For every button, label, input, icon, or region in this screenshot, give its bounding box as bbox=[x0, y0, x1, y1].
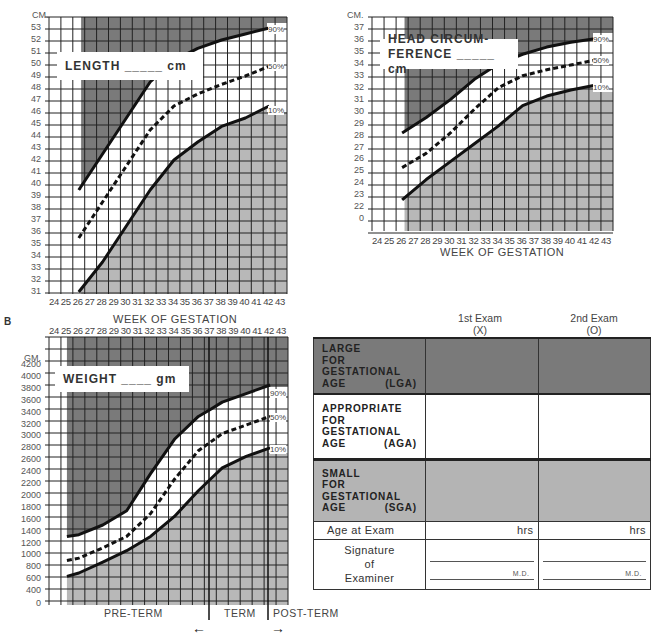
tick-label: 37 bbox=[13, 214, 41, 224]
tick-label: 30 bbox=[336, 106, 364, 116]
tick-label: 30 bbox=[120, 296, 130, 307]
arrow-left-icon: ← bbox=[192, 620, 206, 636]
tick-label: 35 bbox=[505, 235, 515, 246]
head-pct-50: 50% bbox=[593, 56, 609, 65]
signature-1st-exam-field[interactable]: M.D. bbox=[426, 539, 539, 589]
tick-label: 32 bbox=[336, 82, 364, 92]
tick-label: 25 bbox=[384, 235, 394, 246]
tick-label: 2000 bbox=[13, 490, 41, 500]
tick-label: 28 bbox=[420, 235, 430, 246]
aga-2nd-exam-cell[interactable] bbox=[538, 394, 651, 459]
tick-label: 31 bbox=[133, 325, 143, 336]
label-sga: SMALL FOR GESTATIONAL AGE(SGA) bbox=[314, 459, 426, 521]
tick-label: 28 bbox=[97, 325, 107, 336]
tick-label: 36 bbox=[336, 34, 364, 44]
aga-1st-exam-cell[interactable] bbox=[426, 394, 539, 459]
lga-2nd-exam-cell[interactable] bbox=[538, 338, 651, 394]
period-term: TERM bbox=[224, 607, 256, 619]
tick-label: 34 bbox=[493, 235, 503, 246]
length-pct-10: 10% bbox=[268, 106, 284, 115]
length-title-box: LENGTH _____ cm bbox=[57, 52, 203, 80]
length-unit-label: CM. bbox=[32, 10, 49, 20]
length-pct-50: 50% bbox=[268, 62, 284, 71]
tick-label: 35 bbox=[180, 325, 190, 336]
age-1st-exam-field[interactable]: hrs bbox=[426, 521, 539, 539]
tick-label: 23 bbox=[336, 189, 364, 199]
weight-pct-10: 10% bbox=[270, 445, 286, 454]
tick-label: 37 bbox=[336, 22, 364, 32]
tick-label: 25 bbox=[61, 325, 71, 336]
head-title-box: HEAD CIRCUM- FERENCE _____ cm bbox=[380, 39, 518, 69]
tick-label: 3800 bbox=[13, 383, 41, 393]
tick-label: 43 bbox=[601, 235, 611, 246]
tick-label: 4000 bbox=[13, 371, 41, 381]
tick-label: 39 bbox=[553, 235, 563, 246]
tick-label: 400 bbox=[13, 585, 41, 595]
tick-label: 1600 bbox=[13, 514, 41, 524]
signature-2nd-exam-field[interactable]: M.D. bbox=[538, 539, 651, 589]
lga-1st-exam-cell[interactable] bbox=[426, 338, 539, 394]
tick-label: 30 bbox=[444, 235, 454, 246]
tick-label: 27 bbox=[85, 325, 95, 336]
age-2nd-exam-field[interactable]: hrs bbox=[538, 521, 651, 539]
tick-label: 35 bbox=[336, 46, 364, 56]
tick-label: 50 bbox=[13, 58, 41, 68]
md-suffix-1: M.D. bbox=[513, 570, 530, 577]
tick-label: 33 bbox=[156, 296, 166, 307]
tick-label: 42 bbox=[589, 235, 599, 246]
tick-label: 0 bbox=[13, 598, 41, 608]
tick-label: 34 bbox=[336, 58, 364, 68]
tick-label: 600 bbox=[13, 573, 41, 583]
tick-label: 4200 bbox=[13, 359, 41, 369]
tick-label: 31 bbox=[456, 235, 466, 246]
label-lga: LARGE FOR GESTATIONAL AGE(LGA) bbox=[314, 338, 426, 394]
label-aga: APPROPRIATE FOR GESTATIONAL AGE(AGA) bbox=[314, 394, 426, 459]
row-lga: LARGE FOR GESTATIONAL AGE(LGA) bbox=[314, 338, 651, 394]
tick-label: 48 bbox=[13, 82, 41, 92]
length-x-title: WEEK OF GESTATION bbox=[113, 313, 237, 325]
row-age-at-exam: Age at Exam hrs hrs bbox=[314, 521, 651, 539]
tick-label: 40 bbox=[239, 296, 249, 307]
period-post-term: POST-TERM bbox=[273, 607, 339, 619]
sga-1st-exam-cell[interactable] bbox=[426, 459, 539, 521]
tick-label: 28 bbox=[97, 296, 107, 307]
tick-label: 46 bbox=[13, 106, 41, 116]
tick-label: 34 bbox=[13, 250, 41, 260]
tick-label: 32 bbox=[144, 296, 154, 307]
tick-label: 42 bbox=[263, 296, 273, 307]
tick-label: 34 bbox=[168, 325, 178, 336]
tick-label: 25 bbox=[61, 296, 71, 307]
tick-label: 45 bbox=[13, 118, 41, 128]
head-pct-10: 10% bbox=[593, 83, 609, 92]
weight-pct-90: 90% bbox=[270, 389, 286, 398]
tick-label: 40 bbox=[565, 235, 575, 246]
col-header-2nd-exam: 2nd Exam (O) bbox=[538, 312, 650, 336]
tick-label: 40 bbox=[240, 325, 250, 336]
md-suffix-2: M.D. bbox=[625, 570, 642, 577]
tick-label: 39 bbox=[13, 190, 41, 200]
tick-label: 42 bbox=[264, 325, 274, 336]
tick-label: 26 bbox=[73, 325, 83, 336]
tick-label: 2200 bbox=[13, 478, 41, 488]
tick-label: 43 bbox=[275, 296, 285, 307]
tick-label: 41 bbox=[13, 166, 41, 176]
tick-label: 31 bbox=[336, 94, 364, 104]
tick-label: 29 bbox=[109, 325, 119, 336]
length-pct-90: 90% bbox=[268, 25, 284, 34]
tick-label: 33 bbox=[157, 325, 167, 336]
sga-2nd-exam-cell[interactable] bbox=[538, 459, 651, 521]
tick-label: 22 bbox=[336, 201, 364, 211]
tick-label: 24 bbox=[336, 177, 364, 187]
signature-label: Signature of Examiner bbox=[314, 539, 426, 589]
tick-label: 33 bbox=[13, 262, 41, 272]
tick-label: 38 bbox=[216, 325, 226, 336]
tick-label: 24 bbox=[372, 235, 382, 246]
head-x-title: WEEK OF GESTATION bbox=[440, 246, 564, 258]
tick-label: 31 bbox=[132, 296, 142, 307]
head-title-line2: FERENCE _____ cm bbox=[388, 47, 510, 77]
tick-label: 29 bbox=[108, 296, 118, 307]
head-unit-label: CM. bbox=[347, 10, 364, 20]
tick-label: 38 bbox=[216, 296, 226, 307]
tick-label: 26 bbox=[396, 235, 406, 246]
tick-label: 36 bbox=[13, 226, 41, 236]
